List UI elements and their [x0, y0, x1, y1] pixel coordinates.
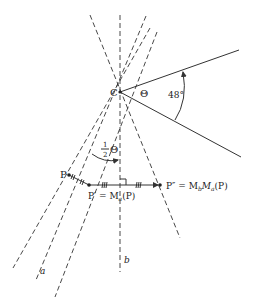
- right-angle-marker: [120, 179, 126, 185]
- point-p: [67, 173, 71, 177]
- ray-upper: [120, 50, 239, 92]
- label-p-double-prime: P″ = MbMa(P): [166, 181, 228, 192]
- dashed-line-right: [90, 15, 180, 238]
- reflection-diagram: C Θ 48° 1 2 Θ P P′ = Ma(P) P″ = MbMa(P) …: [0, 0, 255, 301]
- label-p: P: [60, 169, 67, 180]
- label-line-b: b: [124, 255, 130, 265]
- arrow-to-pdprime: [153, 182, 159, 188]
- mirror-line-a: [36, 16, 146, 280]
- label-line-a: a: [40, 266, 45, 276]
- dashed-line-left-1: [13, 28, 150, 268]
- label-half-num: 1: [103, 141, 107, 149]
- point-p-prime: [87, 183, 91, 187]
- ray-lower: [120, 92, 241, 157]
- point-p-double-prime: [158, 183, 162, 187]
- label-half-theta: Θ: [110, 144, 118, 155]
- dashed-line-left-2: [55, 32, 157, 297]
- label-half-den: 2: [103, 151, 107, 159]
- label-theta: Θ: [140, 88, 148, 99]
- label-48-degrees: 48°: [168, 90, 184, 100]
- point-c: [118, 90, 121, 93]
- label-c: C: [110, 87, 118, 98]
- label-p-prime: P′ = Ma(P): [88, 191, 135, 202]
